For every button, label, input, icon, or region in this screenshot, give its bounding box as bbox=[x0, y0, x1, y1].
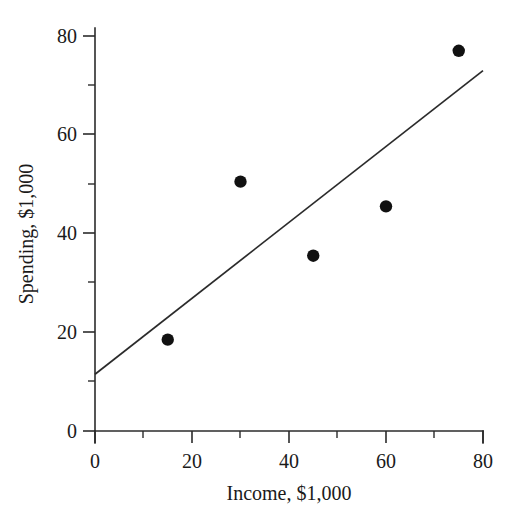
y-tick-label-80: 80 bbox=[57, 25, 77, 47]
data-point bbox=[307, 250, 319, 262]
x-axis-title: Income, $1,000 bbox=[227, 482, 352, 504]
chart-page: 80 60 40 20 0 0 20 40 60 80 Income, $1,0… bbox=[0, 0, 509, 518]
y-tick-label-0: 0 bbox=[67, 420, 77, 442]
y-tick-label-60: 60 bbox=[57, 123, 77, 145]
data-point bbox=[234, 175, 246, 187]
data-point bbox=[453, 45, 465, 57]
y-tick-label-40: 40 bbox=[57, 222, 77, 244]
x-tick-label-80: 80 bbox=[473, 450, 493, 472]
regression-line bbox=[95, 71, 483, 375]
y-axis-tick-labels: 80 60 40 20 0 bbox=[57, 25, 77, 442]
y-axis-major-ticks bbox=[83, 36, 95, 431]
data-point bbox=[380, 200, 392, 212]
y-axis-title: Spending, $1,000 bbox=[15, 164, 38, 305]
data-points-group bbox=[162, 45, 465, 346]
x-axis-tick-labels: 0 20 40 60 80 bbox=[90, 450, 493, 472]
x-tick-label-20: 20 bbox=[182, 450, 202, 472]
x-tick-label-0: 0 bbox=[90, 450, 100, 472]
scatter-plot: 80 60 40 20 0 0 20 40 60 80 Income, $1,0… bbox=[0, 0, 509, 518]
x-tick-label-60: 60 bbox=[376, 450, 396, 472]
x-tick-label-40: 40 bbox=[279, 450, 299, 472]
data-point bbox=[162, 333, 174, 345]
y-tick-label-20: 20 bbox=[57, 321, 77, 343]
x-axis-major-ticks bbox=[95, 431, 483, 443]
